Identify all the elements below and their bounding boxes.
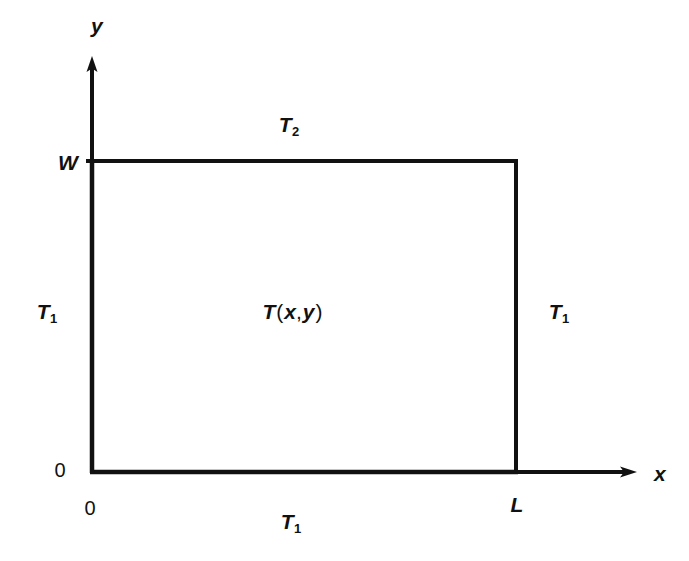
boundary-bottom-symbol: T xyxy=(281,511,294,532)
boundary-label-right: T1 xyxy=(549,301,570,325)
interior-label-close-paren: ) xyxy=(315,300,324,323)
y-tick-zero-label: 0 xyxy=(54,460,65,480)
boundary-bottom-subscript: 1 xyxy=(294,521,301,536)
boundary-right-symbol: T xyxy=(549,301,562,322)
interior-label-arg-y: y xyxy=(303,300,315,323)
y-axis-label: y xyxy=(91,15,103,36)
diagram-canvas: y x W 0 0 L T2 T1 T1 T1 T(x,y) xyxy=(0,0,689,561)
boundary-top-subscript: 2 xyxy=(292,124,299,139)
interior-label-symbol: T xyxy=(262,300,275,323)
boundary-label-bottom: T1 xyxy=(281,511,302,535)
x-tick-zero-label: 0 xyxy=(84,498,95,518)
boundary-left-subscript: 1 xyxy=(50,311,57,326)
y-tick-w-label: W xyxy=(58,152,78,173)
diagram-graphics xyxy=(0,0,689,561)
boundary-top-symbol: T xyxy=(279,114,292,135)
x-axis-label: x xyxy=(654,463,666,484)
boundary-label-left: T1 xyxy=(37,301,58,325)
boundary-left-symbol: T xyxy=(37,301,50,322)
interior-label-open-paren: ( xyxy=(275,300,284,323)
boundary-right-subscript: 1 xyxy=(562,311,569,326)
interior-field-label: T(x,y) xyxy=(262,301,323,322)
boundary-label-top: T2 xyxy=(279,114,300,138)
interior-label-arg-x: x xyxy=(284,300,296,323)
x-tick-l-label: L xyxy=(510,494,523,515)
